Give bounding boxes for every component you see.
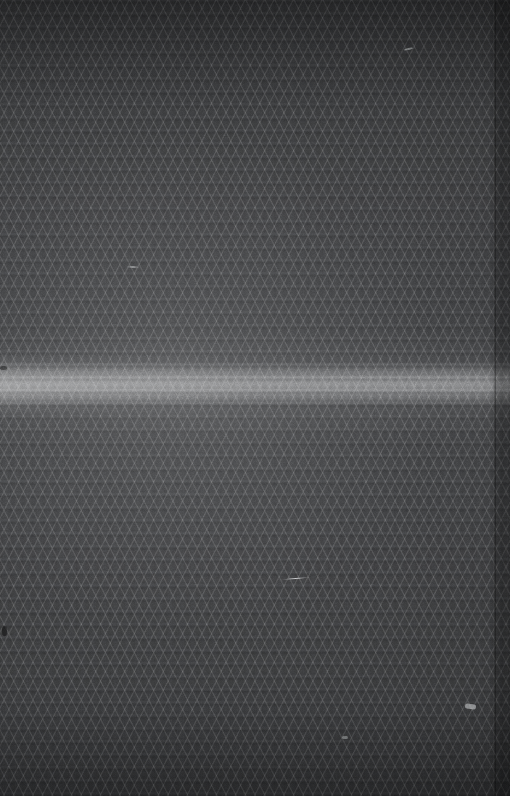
specular-highlight-band: [0, 0, 510, 796]
fabric-texture-photo: [0, 0, 510, 796]
yarn-slub: [2, 626, 7, 636]
lattice-void-cells: [0, 0, 510, 796]
illumination-vignette: [0, 0, 510, 796]
horizontal-rib-courses: [0, 0, 510, 796]
lint-fleck: [465, 703, 477, 709]
fabric-base-tone: [0, 0, 510, 796]
lint-fibre: [126, 266, 140, 268]
photo-grain: [0, 0, 510, 796]
lint-fibre: [281, 577, 310, 581]
lint-fleck: [404, 47, 413, 51]
top-shadow-gradient: [0, 0, 510, 110]
lattice-yarn-diagonal-right: [0, 0, 510, 796]
folded-selvedge-edge: [488, 0, 510, 796]
vertical-wale-striation: [0, 0, 510, 796]
bottom-shadow-gradient: [0, 706, 510, 796]
yarn-slub: [0, 366, 7, 370]
fold-crease-line: [493, 0, 496, 796]
lattice-yarn-diagonal-left: [0, 0, 510, 796]
lint-fleck: [342, 736, 348, 739]
